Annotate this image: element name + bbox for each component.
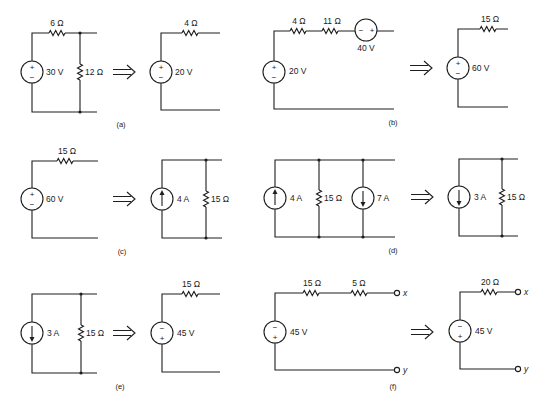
source-sign-top: +: [456, 59, 461, 68]
panel-caption: (a): [116, 120, 126, 129]
resistor-15-ohm: [500, 189, 505, 205]
double-right-arrow-icon: [113, 192, 135, 206]
panel-c-equivalent-circuit: 4 A 15 Ω: [151, 158, 229, 239]
source-value-label: 45 V: [177, 328, 195, 338]
source-sign-bottom: +: [458, 332, 463, 341]
panel-f-equivalent-circuit: x y − + 45 V 20 Ω: [449, 277, 529, 374]
current-source: [151, 188, 173, 210]
source-sign-top: +: [272, 63, 277, 72]
current-source: [352, 187, 374, 209]
source-value-label: 20 V: [289, 66, 307, 76]
source-value-label: 45 V: [475, 326, 493, 336]
panel-caption: (b): [388, 118, 398, 127]
panel-c-original-circuit: + − 60 V 15 Ω: [21, 146, 98, 238]
double-right-arrow-icon: [411, 325, 433, 339]
terminal-label: x: [523, 287, 529, 297]
panel-a-equivalent-circuit: + − 20 V 4 Ω: [150, 18, 220, 110]
resistor-4-ohm: [182, 31, 198, 36]
resistor-15-ohm: [303, 291, 319, 296]
source-sign-top: +: [30, 63, 35, 72]
current-source: [448, 186, 470, 208]
panel-a: + − 30 V 6 Ω 12 Ω + − 20 V 4 Ω (a): [21, 18, 220, 129]
panel-f: x y − + 45 V 15 Ω 5 Ω x y − +: [264, 277, 529, 391]
panel-b-original-circuit: + − 20 V − + 40 V 4 Ω 11 Ω: [263, 16, 394, 109]
panel-e-equivalent-circuit: − + 45 V 15 Ω: [151, 279, 220, 372]
resistor-label: 4 Ω: [184, 18, 197, 28]
resistor-15-ohm: [79, 325, 84, 341]
terminal-label: y: [402, 365, 408, 375]
panel-caption: (d): [388, 246, 398, 255]
resistor-15-ohm: [317, 190, 322, 206]
double-right-arrow-icon: [411, 190, 433, 204]
junction-node: [317, 158, 320, 161]
resistor-15-ohm: [182, 292, 198, 297]
panel-a-original-circuit: + − 30 V 6 Ω 12 Ω: [21, 18, 103, 114]
resistor-label: 6 Ω: [50, 18, 63, 28]
panel-c: + − 60 V 15 Ω 4 A 15 Ω (c): [21, 146, 229, 256]
series-voltage-source: − +: [355, 19, 377, 41]
resistor-15-ohm: [57, 159, 73, 164]
source-sign-bottom: +: [160, 334, 165, 343]
terminal-y[interactable]: [515, 366, 520, 371]
panel-e-original-circuit: 3 A 15 Ω: [21, 292, 104, 374]
panel-d: 4 A 15 Ω 7 A 3 A 15 Ω (d): [264, 157, 525, 255]
resistor-label: 15 Ω: [324, 193, 342, 203]
junction-node: [500, 157, 503, 160]
source-sign-top: +: [159, 63, 164, 72]
source-value-label: 60 V: [46, 194, 64, 204]
source-sign-top: −: [273, 323, 278, 332]
source-value-label: 60 V: [472, 63, 490, 73]
source-sign-bottom: −: [30, 200, 35, 209]
terminal-y[interactable]: [394, 367, 399, 372]
panel-caption: (f): [389, 382, 397, 391]
source-sign-right: +: [370, 26, 375, 35]
panel-b: + − 20 V − + 40 V 4 Ω 11 Ω + − 60 V: [263, 14, 508, 127]
resistor-label: 15 Ω: [481, 14, 499, 24]
source-value-label: 30 V: [46, 67, 64, 77]
panel-b-equivalent-circuit: + − 60 V 15 Ω: [447, 14, 508, 107]
voltage-source: − +: [151, 322, 173, 344]
junction-node: [78, 110, 81, 113]
double-right-arrow-icon: [113, 65, 135, 79]
junction-node: [204, 158, 207, 161]
resistor-label: 15 Ω: [507, 192, 525, 202]
panel-caption: (e): [115, 382, 125, 391]
junction-node: [361, 158, 364, 161]
source-value-label: 20 V: [175, 67, 193, 77]
junction-node: [317, 235, 320, 238]
source-value-label: 3 A: [474, 192, 487, 202]
source-sign-bottom: +: [273, 333, 278, 342]
source-sign-left: −: [359, 26, 364, 35]
resistor-label: 5 Ω: [352, 278, 365, 288]
resistor-12-ohm: [78, 64, 83, 80]
terminal-x[interactable]: [394, 290, 399, 295]
junction-node: [361, 235, 364, 238]
voltage-source: − +: [264, 321, 286, 343]
resistor-label: 12 Ω: [85, 67, 103, 77]
resistor-label: 20 Ω: [481, 277, 499, 287]
source-sign-top: −: [160, 324, 165, 333]
junction-node: [500, 234, 503, 237]
resistor-label: 15 Ω: [303, 278, 321, 288]
terminal-x[interactable]: [515, 289, 520, 294]
panel-f-original-circuit: x y − + 45 V 15 Ω 5 Ω: [264, 278, 408, 375]
source-sign-top: −: [458, 322, 463, 331]
voltage-source: − +: [449, 320, 471, 342]
source-value-label: 40 V: [357, 43, 375, 53]
voltage-source: + −: [21, 61, 43, 83]
voltage-source: + −: [263, 61, 285, 83]
resistor-4-ohm: [290, 29, 306, 34]
junction-node: [79, 292, 82, 295]
resistor-label: 15 Ω: [182, 279, 200, 289]
panel-e: 3 A 15 Ω − + 45 V 15 Ω (e): [21, 279, 220, 391]
voltage-source: + −: [150, 61, 172, 83]
resistor-label: 11 Ω: [323, 16, 341, 26]
resistor-6-ohm: [49, 31, 65, 36]
current-source: [264, 187, 286, 209]
panel-caption: (c): [118, 247, 127, 256]
resistor-15-ohm: [480, 27, 496, 32]
source-value-label: 4 A: [290, 193, 303, 203]
double-right-arrow-icon: [410, 61, 432, 75]
source-sign-bottom: −: [30, 73, 35, 82]
junction-node: [79, 371, 82, 374]
